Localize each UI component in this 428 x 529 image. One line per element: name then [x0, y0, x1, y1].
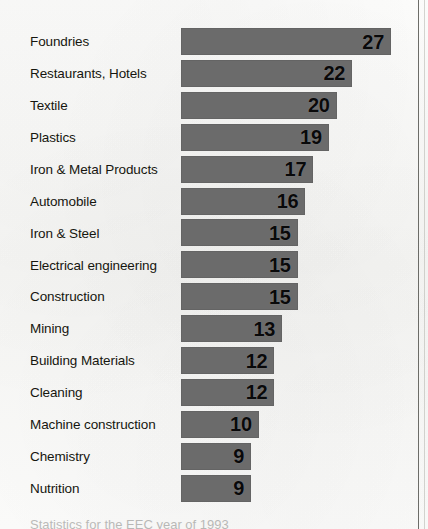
bar-track: 15 [181, 251, 298, 278]
bar-value-label: 15 [269, 255, 298, 275]
bar: 13 [181, 315, 282, 342]
bar-track: 10 [181, 411, 259, 438]
horizontal-bar-chart: Foundries27Restaurants, Hotels22Textile2… [0, 0, 418, 505]
bar: 17 [181, 156, 313, 183]
bar-value-label: 15 [269, 223, 298, 243]
bar-track: 27 [181, 28, 391, 55]
category-label: Machine construction [30, 418, 178, 432]
chart-row: Iron & Steel15 [0, 218, 418, 248]
category-label: Textile [30, 99, 178, 113]
category-label: Plastics [30, 131, 178, 145]
category-label: Cleaning [30, 386, 178, 400]
bar-track: 12 [181, 347, 274, 374]
category-label: Chemistry [30, 450, 178, 464]
bar: 16 [181, 188, 305, 215]
category-label: Building Materials [30, 354, 178, 368]
bar-track: 9 [181, 475, 251, 502]
category-label: Iron & Steel [30, 227, 178, 241]
category-label: Mining [30, 322, 178, 336]
bar: 20 [181, 92, 337, 119]
bar: 15 [181, 283, 298, 310]
bar: 19 [181, 124, 329, 151]
bar: 9 [181, 443, 251, 470]
bar-track: 15 [181, 283, 298, 310]
page-border-rule [418, 0, 419, 529]
bar: 27 [181, 28, 391, 55]
chart-row: Cleaning12 [0, 378, 418, 408]
bar-value-label: 27 [362, 32, 391, 52]
chart-row: Machine construction10 [0, 410, 418, 440]
bar-value-label: 16 [277, 191, 306, 211]
bar-track: 16 [181, 188, 305, 215]
bar-track: 12 [181, 379, 274, 406]
bar: 15 [181, 251, 298, 278]
chart-row: Automobile16 [0, 187, 418, 217]
bar-value-label: 12 [246, 351, 275, 371]
chart-row: Iron & Metal Products17 [0, 155, 418, 185]
category-label: Iron & Metal Products [30, 163, 178, 177]
chart-row: Construction15 [0, 282, 418, 312]
chart-caption: Statistics for the EEC year of 1993 [30, 517, 400, 529]
bar-value-label: 9 [233, 446, 251, 466]
chart-row: Chemistry9 [0, 442, 418, 472]
category-label: Nutrition [30, 482, 178, 496]
bar: 10 [181, 411, 259, 438]
category-label: Electrical engineering [30, 259, 178, 273]
bar-track: 19 [181, 124, 329, 151]
category-label: Restaurants, Hotels [30, 67, 178, 81]
chart-row: Building Materials12 [0, 346, 418, 376]
bar: 9 [181, 475, 251, 502]
bar-value-label: 15 [269, 287, 298, 307]
bar: 12 [181, 347, 274, 374]
bar-value-label: 22 [323, 63, 352, 83]
bar-track: 22 [181, 60, 352, 87]
bar-value-label: 20 [308, 95, 337, 115]
category-label: Foundries [30, 35, 178, 49]
chart-row: Plastics19 [0, 123, 418, 153]
chart-row: Restaurants, Hotels22 [0, 59, 418, 89]
chart-row: Textile20 [0, 91, 418, 121]
category-label: Automobile [30, 195, 178, 209]
bar-value-label: 13 [253, 319, 282, 339]
bar-value-label: 12 [246, 382, 275, 402]
bar-track: 15 [181, 219, 298, 246]
bar-value-label: 19 [300, 127, 329, 147]
bar: 22 [181, 60, 352, 87]
chart-row: Nutrition9 [0, 474, 418, 504]
bar-track: 9 [181, 443, 251, 470]
bar: 12 [181, 379, 274, 406]
chart-row: Mining13 [0, 314, 418, 344]
chart-page: Foundries27Restaurants, Hotels22Textile2… [0, 0, 428, 529]
bar-value-label: 10 [230, 414, 259, 434]
bar-track: 17 [181, 156, 313, 183]
bar-track: 20 [181, 92, 337, 119]
chart-row: Foundries27 [0, 27, 418, 57]
bar-value-label: 17 [285, 159, 314, 179]
chart-row: Electrical engineering15 [0, 250, 418, 280]
bar-track: 13 [181, 315, 282, 342]
category-label: Construction [30, 290, 178, 304]
bar: 15 [181, 219, 298, 246]
page-border-rule-outer [424, 0, 425, 529]
bar-value-label: 9 [233, 478, 251, 498]
